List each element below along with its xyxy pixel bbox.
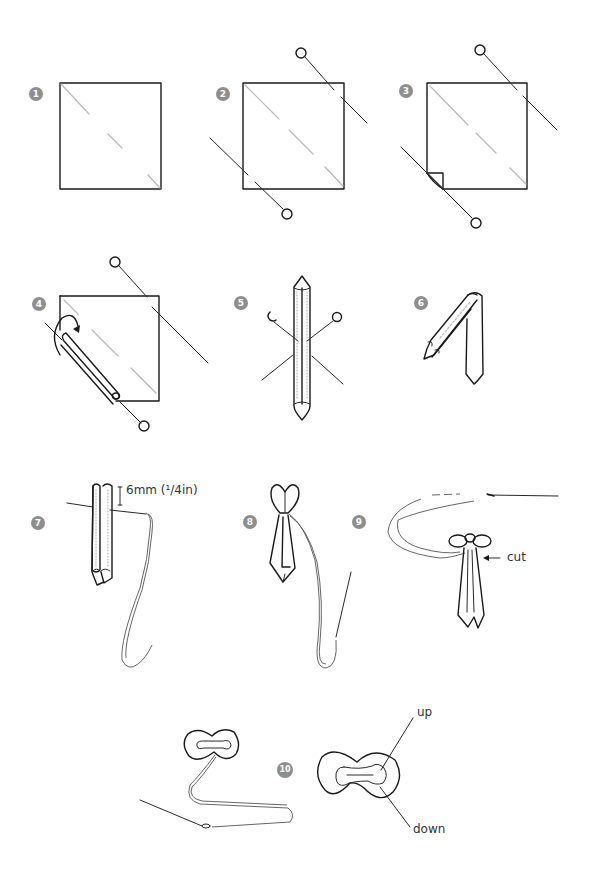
step-10-drawing (0, 0, 594, 875)
down-label: down (413, 822, 445, 836)
up-label: up (417, 705, 432, 719)
